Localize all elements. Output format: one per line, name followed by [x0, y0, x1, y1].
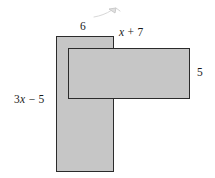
dimension-label-left: 3x − 5: [14, 94, 45, 106]
pencil-scribble-icon: [92, 6, 124, 20]
dimension-label-top-right: x + 7: [119, 27, 144, 39]
dimension-label-top-right-suffix: + 7: [124, 26, 143, 38]
dimension-label-top-left: 6: [80, 21, 86, 33]
horizontal-rectangle-shape: [68, 48, 190, 99]
dimension-label-right: 5: [197, 67, 203, 79]
geometry-figure-canvas: 6 x + 7 5 3x − 5: [0, 0, 215, 178]
dimension-label-left-suffix: − 5: [25, 93, 44, 105]
